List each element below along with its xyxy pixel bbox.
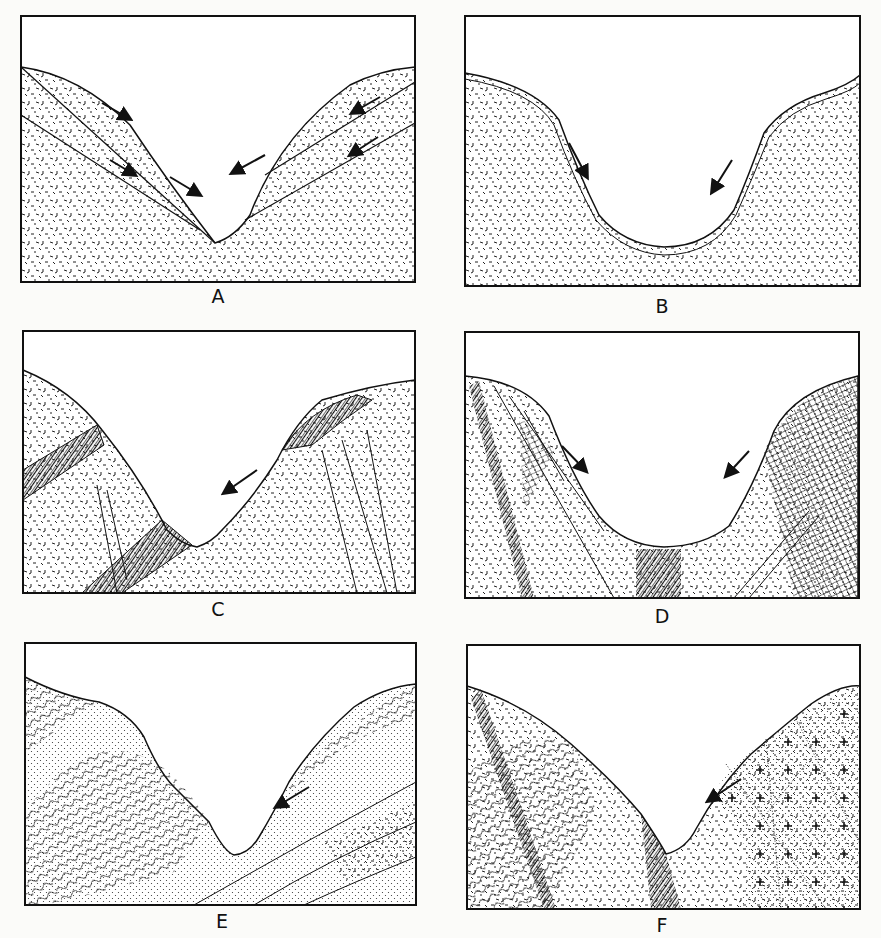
panel-a: A	[20, 15, 416, 283]
valley-cross-section-a	[20, 15, 416, 283]
valley-cross-section-f	[466, 644, 861, 910]
valley-cross-section-e	[24, 642, 417, 906]
panel-label: D	[642, 605, 682, 627]
panel-c: C	[22, 330, 416, 594]
panel-label: B	[642, 295, 682, 317]
panel-label: C	[198, 598, 238, 620]
panel-f: F	[466, 644, 861, 910]
panel-e: E	[24, 642, 417, 906]
panel-d: D	[464, 331, 860, 599]
panel-label: A	[198, 285, 238, 307]
panel-label: E	[202, 910, 242, 932]
valley-cross-section-d	[464, 331, 860, 599]
panel-label: F	[642, 914, 682, 936]
panel-b: B	[464, 15, 861, 287]
valley-cross-section-b	[464, 15, 861, 287]
valley-cross-section-c	[22, 330, 416, 594]
